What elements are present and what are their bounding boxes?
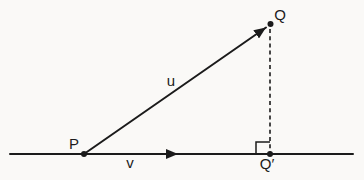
vector-u-arrow [84,28,266,155]
point-q-dot [268,21,274,27]
vector-u-label: u [167,72,175,89]
vector-projection-diagram: P Q Q′ u v [0,0,364,180]
vector-diagram-canvas: P Q Q′ u v [0,0,364,180]
vector-v-label: v [126,154,134,171]
point-q-prime-label: Q′ [260,155,275,172]
right-angle-marker [256,142,270,154]
point-p-dot [81,151,87,157]
point-p-label: P [69,135,79,152]
point-q-label: Q [274,6,286,23]
